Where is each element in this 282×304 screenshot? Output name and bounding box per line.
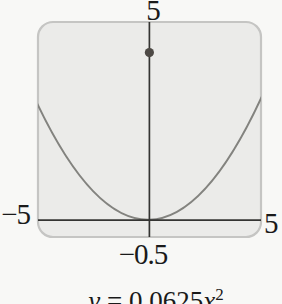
equation-label: y = 0.0625x2	[31, 286, 281, 304]
figure-canvas: 5 −5 5 −0.5 y = 0.0625x2	[0, 0, 282, 304]
equation-lhs: y	[88, 286, 100, 304]
y-min-label: −0.5	[103, 240, 183, 269]
equation-exponent: 2	[215, 285, 224, 304]
equation-relation: =	[100, 286, 129, 304]
equation-variable: x	[203, 286, 215, 304]
x-min-label: −5	[0, 200, 30, 229]
focus-point	[145, 48, 154, 57]
equation-coefficient: 0.0625	[129, 286, 203, 304]
x-max-label: 5	[264, 209, 282, 238]
y-max-label: 5	[139, 0, 167, 25]
